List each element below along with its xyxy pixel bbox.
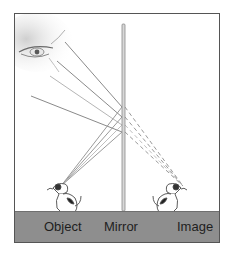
image-label: Image [177, 219, 213, 234]
virtual-rays [125, 107, 183, 186]
object-label: Object [44, 219, 82, 234]
image-dog-icon [153, 184, 187, 215]
object-rays [61, 107, 122, 186]
ground-bar: Object Mirror Image [15, 211, 219, 243]
eye-icon [15, 14, 73, 72]
mirror [122, 24, 125, 211]
mirror-label: Mirror [104, 219, 138, 234]
object-dog-icon [47, 184, 81, 215]
diagram-frame: Object Mirror Image [14, 13, 220, 243]
reflection-scene [15, 14, 219, 242]
